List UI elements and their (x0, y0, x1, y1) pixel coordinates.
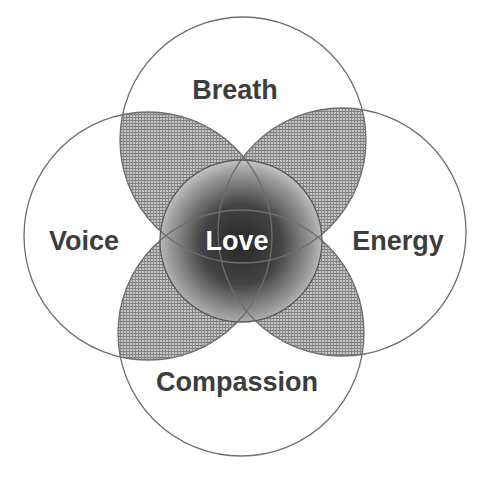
label-voice: Voice (49, 226, 119, 256)
label-compassion: Compassion (156, 367, 318, 397)
label-breath: Breath (192, 75, 278, 105)
label-energy: Energy (352, 226, 444, 256)
venn-diagram: Breath Voice Energy Compassion Love (0, 0, 477, 477)
label-love: Love (205, 226, 268, 256)
